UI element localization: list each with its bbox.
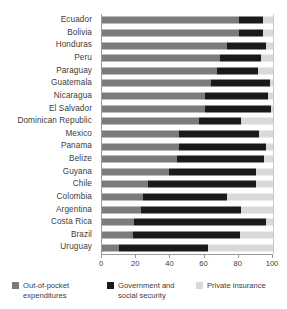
bar-segment-out-of-pocket[interactable] (102, 93, 205, 100)
bar-segment-government[interactable] (141, 206, 240, 213)
bar-segment-government[interactable] (134, 219, 266, 226)
bar-segment-out-of-pocket[interactable] (102, 206, 141, 213)
category-label: Colombia (0, 191, 96, 204)
stacked-bar[interactable] (102, 168, 273, 175)
category-axis-labels: EcuadorBoliviaHondurasPeruParaguayGuatem… (0, 14, 96, 254)
bar-segment-out-of-pocket[interactable] (102, 143, 179, 150)
bar-segment-government[interactable] (227, 42, 266, 49)
table-row (102, 39, 273, 52)
bar-segment-out-of-pocket[interactable] (102, 17, 239, 24)
bar-segment-private[interactable] (268, 93, 273, 100)
bar-segment-out-of-pocket[interactable] (102, 67, 217, 74)
legend-item[interactable]: Out-of-pocketexpenditures (12, 281, 69, 301)
legend-item[interactable]: Private insurance (196, 281, 266, 291)
bar-segment-private[interactable] (259, 130, 273, 137)
bar-segment-private[interactable] (256, 181, 273, 188)
bar-segment-private[interactable] (256, 168, 273, 175)
bar-segment-private[interactable] (266, 219, 273, 226)
bar-segment-government[interactable] (239, 17, 263, 24)
stacked-bar[interactable] (102, 93, 273, 100)
stacked-bar[interactable] (102, 42, 273, 49)
category-label: Chile (0, 178, 96, 191)
table-row (102, 115, 273, 128)
category-label: Dominican Republic (0, 115, 96, 128)
bar-segment-government[interactable] (177, 156, 264, 163)
bar-segment-out-of-pocket[interactable] (102, 29, 239, 36)
plot-area (101, 14, 274, 254)
bar-segment-private[interactable] (264, 156, 273, 163)
bar-segment-out-of-pocket[interactable] (102, 219, 134, 226)
bar-segment-private[interactable] (263, 17, 273, 24)
bar-segment-out-of-pocket[interactable] (102, 55, 220, 62)
bar-segment-government[interactable] (199, 118, 240, 125)
stacked-bar[interactable] (102, 156, 273, 163)
stacked-bar[interactable] (102, 244, 273, 251)
bar-segment-government[interactable] (220, 55, 261, 62)
stacked-bar[interactable] (102, 231, 273, 238)
legend-item[interactable]: Government andsocial security (107, 281, 175, 301)
bar-segment-private[interactable] (266, 143, 273, 150)
table-row (102, 65, 273, 78)
stacked-bar[interactable] (102, 55, 273, 62)
category-label: Peru (0, 52, 96, 65)
stacked-bar[interactable] (102, 143, 273, 150)
bar-segment-private[interactable] (208, 244, 273, 251)
bar-segment-government[interactable] (169, 168, 256, 175)
stacked-bar[interactable] (102, 67, 273, 74)
bar-segment-out-of-pocket[interactable] (102, 156, 177, 163)
bar-segment-government[interactable] (133, 231, 241, 238)
stacked-bar[interactable] (102, 206, 273, 213)
table-row (102, 241, 273, 254)
bar-segment-out-of-pocket[interactable] (102, 105, 205, 112)
bar-segment-out-of-pocket[interactable] (102, 194, 143, 201)
bar-segment-government[interactable] (205, 93, 268, 100)
bar-segment-government[interactable] (179, 130, 259, 137)
bar-segment-government[interactable] (179, 143, 266, 150)
bar-segment-government[interactable] (205, 105, 272, 112)
bar-segment-private[interactable] (263, 29, 273, 36)
bar-segment-private[interactable] (241, 206, 273, 213)
bar-segment-government[interactable] (148, 181, 256, 188)
category-label: Honduras (0, 39, 96, 52)
category-label: Nicaragua (0, 90, 96, 103)
bar-rows (102, 14, 273, 254)
x-axis-tick-labels: 020406080100 (0, 258, 287, 270)
bar-segment-government[interactable] (217, 67, 258, 74)
bar-segment-private[interactable] (266, 42, 273, 49)
bar-segment-private[interactable] (240, 231, 272, 238)
legend-label-line1: Government and (118, 281, 175, 290)
stacked-bar[interactable] (102, 219, 273, 226)
bar-segment-out-of-pocket[interactable] (102, 231, 133, 238)
bar-segment-out-of-pocket[interactable] (102, 168, 169, 175)
bar-segment-out-of-pocket[interactable] (102, 181, 148, 188)
bar-segment-private[interactable] (227, 194, 273, 201)
stacked-bar[interactable] (102, 194, 273, 201)
stacked-bar[interactable] (102, 105, 273, 112)
bar-segment-government[interactable] (143, 194, 227, 201)
stacked-bar[interactable] (102, 80, 273, 87)
category-label: Ecuador (0, 14, 96, 27)
category-label: Argentina (0, 203, 96, 216)
legend-label: Government andsocial security (118, 281, 175, 301)
stacked-bar[interactable] (102, 17, 273, 24)
bar-segment-private[interactable] (261, 55, 273, 62)
bar-segment-private[interactable] (241, 118, 273, 125)
stacked-bar[interactable] (102, 181, 273, 188)
category-label: Belize (0, 153, 96, 166)
bar-segment-out-of-pocket[interactable] (102, 118, 199, 125)
category-label: Guyana (0, 166, 96, 179)
bar-segment-private[interactable] (258, 67, 273, 74)
bar-segment-government[interactable] (211, 80, 269, 87)
bar-segment-government[interactable] (239, 29, 263, 36)
stacked-bar[interactable] (102, 118, 273, 125)
bar-segment-government[interactable] (119, 244, 208, 251)
stacked-bar-chart: EcuadorBoliviaHondurasPeruParaguayGuatem… (0, 0, 287, 309)
bar-segment-out-of-pocket[interactable] (102, 42, 227, 49)
bar-segment-private[interactable] (270, 80, 273, 87)
stacked-bar[interactable] (102, 130, 273, 137)
stacked-bar[interactable] (102, 29, 273, 36)
bar-segment-out-of-pocket[interactable] (102, 244, 119, 251)
bar-segment-out-of-pocket[interactable] (102, 130, 179, 137)
bar-segment-out-of-pocket[interactable] (102, 80, 211, 87)
bar-segment-private[interactable] (271, 105, 273, 112)
